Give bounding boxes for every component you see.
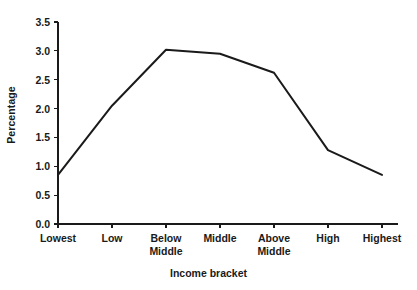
plot-area [0,0,417,290]
x-axis-ticks [58,224,382,228]
data-line-percentage [58,50,382,175]
chart-container: Percentage 0.00.51.01.52.02.53.03.5 Lowe… [0,0,417,290]
data-series-group [58,50,382,175]
axes-group [54,22,398,228]
x-axis-title: Income bracket [0,267,417,279]
x-axis-title-text: Income bracket [170,267,247,279]
